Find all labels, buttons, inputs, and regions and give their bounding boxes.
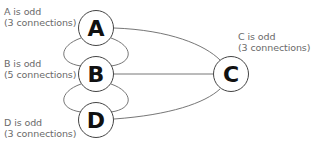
node-a: A [79,11,114,46]
node-b-letter: B [88,62,105,87]
edge-b-d-left [64,84,81,112]
label-b-line2: (5 connections) [4,69,76,80]
label-c: C is odd (3 connections) [238,31,310,53]
label-a: A is odd (3 connections) [4,6,76,28]
label-a-line1: A is odd [4,6,76,17]
edge-d-c [114,89,220,119]
label-d: D is odd (3 connections) [4,117,76,139]
edge-a-b-right [111,38,128,66]
node-a-letter: A [87,16,104,41]
node-c: C [214,57,249,92]
node-b: B [79,57,114,92]
node-c-letter: C [223,62,239,87]
label-d-line2: (3 connections) [4,128,76,139]
edge-a-c [114,28,220,60]
label-c-line2: (3 connections) [238,42,310,53]
edge-b-d-right [111,84,128,112]
node-d: D [79,103,114,138]
label-b: B is odd (5 connections) [4,58,76,80]
label-b-line1: B is odd [4,58,76,69]
node-d-letter: D [87,108,105,133]
label-c-line1: C is odd [238,31,310,42]
label-d-line1: D is odd [4,117,76,128]
label-a-line2: (3 connections) [4,17,76,28]
